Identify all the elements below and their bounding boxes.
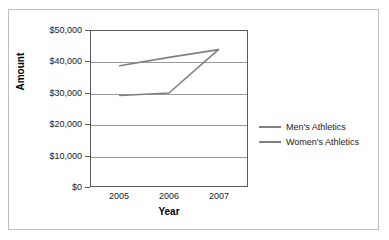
- y-tick-label: $50,000: [49, 25, 82, 35]
- series-line: [120, 50, 219, 96]
- chart-figure: Amount $0$10,000$20,000$30,000$40,000$50…: [8, 9, 379, 230]
- series-lines: [91, 31, 247, 186]
- x-axis-title: Year: [90, 206, 248, 217]
- legend-item[interactable]: Women's Athletics: [259, 135, 377, 148]
- y-tick-label: $0: [72, 182, 82, 192]
- y-tick-label: $40,000: [49, 56, 82, 66]
- y-tick-label: $30,000: [49, 88, 82, 98]
- chart-legend: Men's AthleticsWomen's Athletics: [259, 120, 377, 150]
- legend-item[interactable]: Men's Athletics: [259, 120, 377, 133]
- legend-swatch-icon: [259, 141, 281, 143]
- x-tick-label: 2007: [199, 191, 239, 201]
- legend-label: Men's Athletics: [286, 122, 346, 132]
- legend-label: Women's Athletics: [286, 137, 359, 147]
- y-tick-mark: [85, 187, 90, 188]
- x-tick-label: 2006: [149, 191, 189, 201]
- plot-area: [90, 30, 248, 187]
- legend-swatch-icon: [259, 126, 281, 128]
- y-tick-label: $10,000: [49, 151, 82, 161]
- y-axis-title: Amount: [15, 73, 26, 91]
- y-tick-label: $20,000: [49, 119, 82, 129]
- x-tick-label: 2005: [99, 191, 139, 201]
